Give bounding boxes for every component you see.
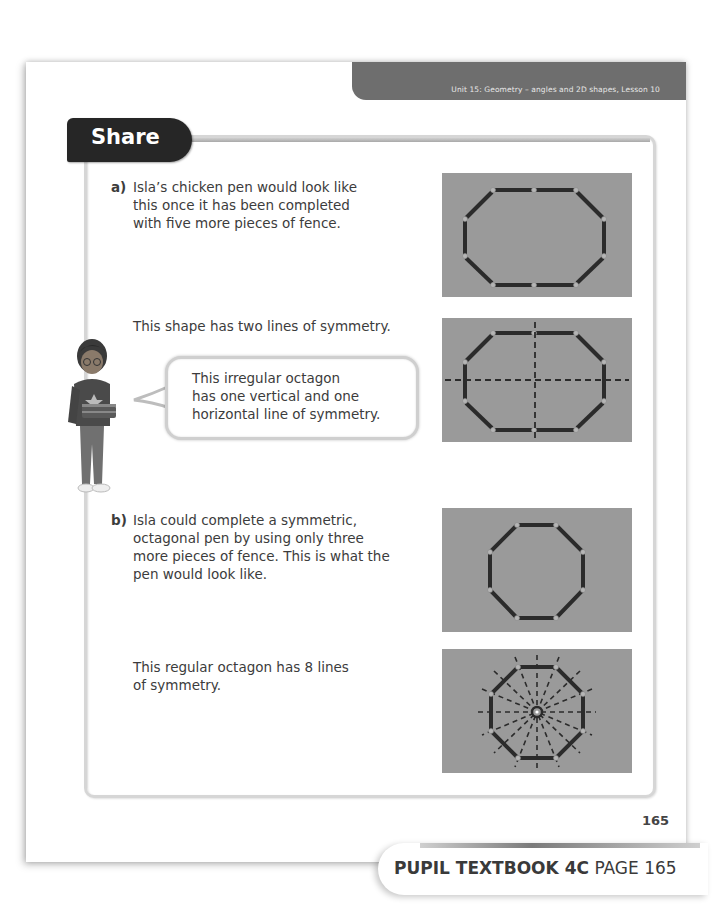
unit-banner: Unit 15: Geometry – angles and 2D shapes… <box>352 62 686 100</box>
speech-line: This irregular octagon <box>192 369 380 387</box>
part-b-label: b) <box>111 511 127 529</box>
part-b-line: pen would look like. <box>133 565 390 583</box>
regular-octagon-pen-figure <box>442 508 632 632</box>
part-b-note-line: This regular octagon has 8 lines <box>133 658 349 676</box>
part-b-line: more pieces of fence. This is what the <box>133 547 390 565</box>
share-rail <box>180 138 650 142</box>
regular-octagon-icon <box>442 508 632 632</box>
part-b-note-line: of symmetry. <box>133 676 349 694</box>
speech-bubble: This irregular octagon has one vertical … <box>165 356 419 440</box>
speech-line: horizontal line of symmetry. <box>192 405 380 423</box>
part-a-line: with five more pieces of fence. <box>133 214 357 232</box>
part-a-line: Isla’s chicken pen would look like <box>133 178 357 196</box>
irregular-octagon-icon <box>442 173 632 297</box>
section-tab: Share <box>67 118 192 162</box>
footer-label: PUPIL TEXTBOOK 4C PAGE 165 <box>394 858 677 878</box>
speech-bubble-text: This irregular octagon has one vertical … <box>192 369 380 423</box>
irregular-octagon-symmetry-figure <box>442 318 632 442</box>
part-b-text: b) Isla could complete a symmetric, octa… <box>133 511 390 583</box>
unit-banner-text: Unit 15: Geometry – angles and 2D shapes… <box>451 85 660 94</box>
part-b-symmetry-note: This regular octagon has 8 lines of symm… <box>133 658 349 694</box>
page-number: 165 <box>642 813 669 828</box>
character-icon <box>64 334 122 500</box>
symmetry-lines-icon <box>442 318 632 442</box>
part-b-line: Isla could complete a symmetric, <box>133 511 390 529</box>
irregular-octagon-pen-figure <box>442 173 632 297</box>
part-a-line: this once it has been completed <box>133 196 357 214</box>
part-b-line: octagonal pen by using only three <box>133 529 390 547</box>
page-label: PAGE 165 <box>594 858 676 878</box>
regular-octagon-symmetry-figure <box>442 649 632 773</box>
part-a-symmetry-note: This shape has two lines of symmetry. <box>133 317 391 335</box>
book-label: PUPIL TEXTBOOK 4C <box>394 858 589 878</box>
part-a-text: a) Isla’s chicken pen would look like th… <box>133 178 357 232</box>
pupil-character <box>64 334 122 504</box>
footer-divider <box>420 843 700 848</box>
eight-symmetry-lines-icon <box>442 649 632 773</box>
section-title: Share <box>91 125 160 149</box>
speech-line: has one vertical and one <box>192 387 380 405</box>
part-a-label: a) <box>111 178 126 196</box>
